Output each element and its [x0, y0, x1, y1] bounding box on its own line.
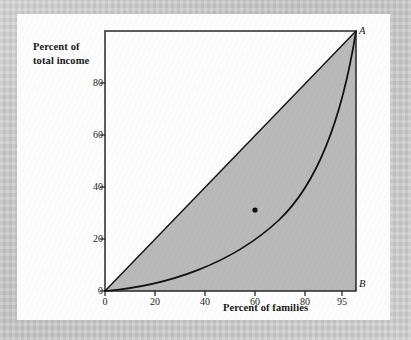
figure-paper: Percent of total income Percent of famil…: [17, 14, 390, 320]
point-c-marker: [252, 207, 257, 212]
screenshot-root: Percent of total income Percent of famil…: [0, 0, 411, 340]
lorenz-curve-plot: [17, 14, 390, 320]
